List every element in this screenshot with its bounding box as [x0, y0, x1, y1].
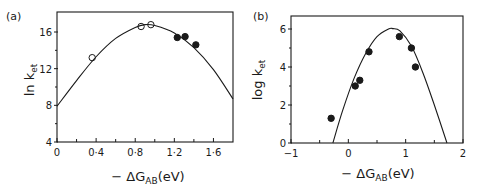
x-tick-label: 0·8	[127, 147, 143, 158]
y-tick-label: 4	[46, 137, 52, 148]
figure: (a) 00·40·81·21·6481216 ln ket − ΔGAB(eV…	[0, 0, 489, 189]
y-tick-label: 0	[280, 138, 286, 149]
plot-area-a	[57, 12, 233, 142]
x-tick-label: −1	[284, 148, 299, 159]
x-tick-label: 1	[402, 148, 408, 159]
x-tick-label: 0	[54, 147, 60, 158]
y-tick-label: 6	[280, 24, 286, 35]
x-tick-label: 1·6	[205, 147, 221, 158]
x-tick-label: 0	[345, 148, 351, 159]
panel-a-label: (a)	[6, 10, 21, 23]
fit-curve	[57, 24, 233, 106]
y-axis-label-b: log ket	[250, 59, 267, 100]
x-tick-label: 2	[460, 148, 466, 159]
y-tick-label: 12	[39, 64, 52, 75]
y-tick-label: 4	[280, 62, 286, 73]
plot-area-b	[291, 16, 463, 143]
series-a	[57, 21, 233, 106]
x-tick-label: 1·2	[166, 147, 182, 158]
chart-panel-b: (b) −10120246 log ket − ΔGAB(eV)	[250, 10, 466, 183]
filled-data-point	[352, 83, 358, 89]
axis-ticks-b: −10120246	[280, 24, 467, 159]
x-axis-label-b: − ΔGAB(eV)	[341, 166, 414, 183]
filled-data-point	[396, 33, 402, 39]
fit-curve	[333, 28, 447, 143]
y-tick-label: 16	[39, 27, 52, 38]
filled-data-point	[412, 64, 418, 70]
series-b	[328, 28, 447, 143]
x-tick-label: 0·4	[88, 147, 104, 158]
panel-b-label: (b)	[253, 10, 269, 23]
filled-data-point	[357, 77, 363, 83]
open-data-point	[89, 54, 95, 60]
x-axis-label-a: − ΔGAB(eV)	[111, 169, 184, 186]
y-tick-label: 2	[280, 100, 286, 111]
filled-data-point	[328, 115, 334, 121]
y-axis-label-a: ln ket	[22, 63, 39, 96]
chart-panel-a: (a) 00·40·81·21·6481216 ln ket − ΔGAB(eV…	[6, 10, 233, 186]
y-tick-label: 8	[46, 100, 52, 111]
